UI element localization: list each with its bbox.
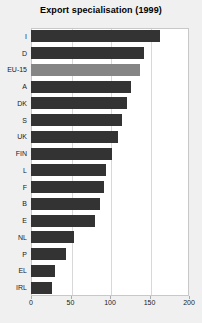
bar-l[interactable] — [31, 164, 106, 176]
y-axis-tick-label: EU-15 — [0, 62, 29, 79]
y-axis-labels: IDEU-15ADKSUKFINLFBENLPELIRL — [0, 28, 29, 296]
x-axis-tick-label: 200 — [183, 299, 195, 306]
bar-row — [31, 62, 189, 79]
y-axis-tick-label: IRL — [0, 279, 29, 296]
y-axis-tick-label: FIN — [0, 145, 29, 162]
bar-el[interactable] — [31, 265, 55, 277]
x-axis-labels: 050100150200 — [0, 299, 202, 313]
y-axis-tick-label: E — [0, 212, 29, 229]
y-axis-tick-label: I — [0, 28, 29, 45]
y-axis-tick-label: S — [0, 112, 29, 129]
bar-row — [31, 145, 189, 162]
bar-row — [31, 78, 189, 95]
bar-row — [31, 196, 189, 213]
x-axis-tick-mark — [31, 296, 32, 299]
y-axis-tick-label: B — [0, 196, 29, 213]
bar-row — [31, 45, 189, 62]
bar-row — [31, 279, 189, 296]
x-axis-tick-mark — [189, 296, 190, 299]
bar-row — [31, 263, 189, 280]
bar-row — [31, 112, 189, 129]
bar-b[interactable] — [31, 198, 100, 210]
bar-dk[interactable] — [31, 97, 127, 109]
bar-e[interactable] — [31, 215, 95, 227]
bar-p[interactable] — [31, 248, 66, 260]
bar-i[interactable] — [31, 30, 160, 42]
x-axis-tick-mark — [71, 296, 72, 299]
x-axis-tick-mark — [110, 296, 111, 299]
x-axis-tick-label: 50 — [67, 299, 75, 306]
bar-fin[interactable] — [31, 148, 112, 160]
y-axis-tick-label: EL — [0, 263, 29, 280]
bar-row — [31, 28, 189, 45]
bar-s[interactable] — [31, 114, 122, 126]
bar-row — [31, 246, 189, 263]
y-axis-tick-label: L — [0, 162, 29, 179]
bar-row — [31, 129, 189, 146]
bar-row — [31, 229, 189, 246]
y-axis-tick-label: NL — [0, 229, 29, 246]
bar-irl[interactable] — [31, 282, 52, 294]
bar-row — [31, 95, 189, 112]
bar-d[interactable] — [31, 47, 144, 59]
chart-title: Export specialisation (1999) — [0, 5, 202, 15]
y-axis-tick-label: P — [0, 246, 29, 263]
bar-f[interactable] — [31, 181, 104, 193]
x-axis-tick-label: 0 — [29, 299, 33, 306]
bar-nl[interactable] — [31, 231, 74, 243]
x-axis-tick-label: 150 — [144, 299, 156, 306]
y-axis-tick-label: D — [0, 45, 29, 62]
bar-row — [31, 179, 189, 196]
x-axis-tick-label: 100 — [104, 299, 116, 306]
y-axis-tick-label: F — [0, 179, 29, 196]
bar-row — [31, 212, 189, 229]
y-axis-tick-label: DK — [0, 95, 29, 112]
bars-layer — [31, 28, 189, 296]
bar-uk[interactable] — [31, 131, 118, 143]
bar-row — [31, 162, 189, 179]
y-axis-tick-label: UK — [0, 129, 29, 146]
bar-eu-15[interactable] — [31, 64, 140, 76]
chart-container: Export specialisation (1999) IDEU-15ADKS… — [0, 0, 202, 323]
y-axis-tick-label: A — [0, 78, 29, 95]
bar-a[interactable] — [31, 81, 131, 93]
x-axis-tick-mark — [150, 296, 151, 299]
